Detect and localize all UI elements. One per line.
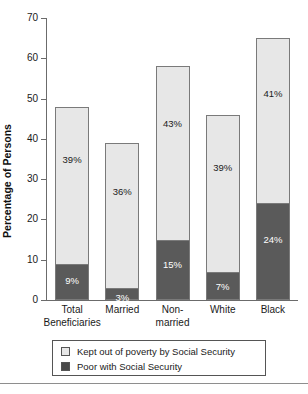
category-label-line-2: Beneficiaries	[40, 317, 104, 330]
bar-group: 41%24%	[256, 38, 290, 300]
bar-group: 39%9%	[55, 107, 89, 300]
bar-group: 43%15%	[156, 66, 190, 300]
y-axis-tick-label: 10	[8, 255, 38, 265]
legend-swatch-dark-icon	[61, 362, 70, 371]
bar-segment-value-label: 39%	[63, 155, 82, 165]
bar-group: 36%3%	[105, 143, 139, 300]
chart-legend: Kept out of poverty by Social Security P…	[52, 340, 266, 376]
legend-label: Poor with Social Security	[77, 362, 182, 372]
bar-segment-value-label: 24%	[263, 235, 282, 245]
x-axis-category-labels: TotalBeneficiariesMarriedNon-marriedWhit…	[47, 304, 298, 338]
bar-segment-value-label: 36%	[113, 187, 132, 197]
y-axis-tick-label: 20	[8, 214, 38, 224]
y-axis-tick	[41, 300, 47, 301]
y-axis-tick-label: 60	[8, 53, 38, 63]
bar-segment-poor-with-social-security: 24%	[256, 203, 290, 300]
bars-container: 39%9%36%3%43%15%39%7%41%24%	[47, 18, 298, 300]
bar-segment-kept-out-of-poverty: 39%	[55, 107, 89, 264]
bar-segment-value-label: 39%	[213, 163, 232, 173]
category-label-line-1: Non-	[162, 304, 184, 315]
bar-group: 39%7%	[206, 115, 240, 300]
bar-segment-value-label: 15%	[163, 260, 182, 270]
bar-segment-poor-with-social-security: 3%	[105, 288, 139, 300]
x-axis-line	[46, 300, 298, 301]
y-axis-tick-label: 0	[8, 295, 38, 305]
bar-segment-value-label: 43%	[163, 119, 182, 129]
category-label-line-1: White	[210, 304, 236, 315]
category-label-line-2: married	[141, 317, 205, 330]
bar-segment-kept-out-of-poverty: 41%	[256, 38, 290, 203]
y-axis-tick-label: 30	[8, 174, 38, 184]
legend-item-kept-out-of-poverty: Kept out of poverty by Social Security	[61, 345, 265, 358]
bar-segment-poor-with-social-security: 9%	[55, 264, 89, 300]
bar-segment-kept-out-of-poverty: 36%	[105, 143, 139, 288]
y-axis-tick-label: 40	[8, 134, 38, 144]
bar-segment-kept-out-of-poverty: 39%	[206, 115, 240, 272]
bar-segment-value-label: 9%	[65, 276, 79, 286]
legend-label: Kept out of poverty by Social Security	[77, 347, 235, 357]
category-label-line-1: Married	[105, 304, 139, 315]
bar-segment-value-label: 3%	[115, 293, 129, 303]
bar-segment-poor-with-social-security: 15%	[156, 240, 190, 300]
bar-segment-value-label: 41%	[263, 89, 282, 99]
category-label-line-1: Total	[62, 304, 83, 315]
category-label-line-1: Black	[261, 304, 285, 315]
y-axis-tick-label: 50	[8, 94, 38, 104]
footer-divider	[0, 383, 308, 384]
legend-item-poor-with-social-security: Poor with Social Security	[61, 360, 265, 373]
bar-segment-kept-out-of-poverty: 43%	[156, 66, 190, 239]
bar-segment-poor-with-social-security: 7%	[206, 272, 240, 300]
stacked-bar-chart: Percentage of Persons 010203040506070 39…	[0, 0, 308, 394]
legend-swatch-light-icon	[61, 347, 70, 356]
bar-segment-value-label: 7%	[216, 282, 230, 292]
y-axis-tick-label: 70	[8, 13, 38, 23]
x-axis-category-label: Black	[241, 304, 305, 317]
